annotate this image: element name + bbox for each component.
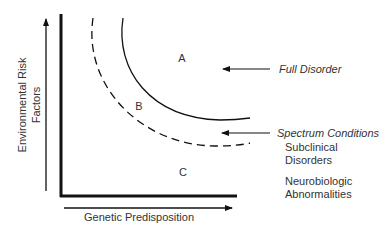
y-axis-label-line1: Environmental Risk — [16, 57, 28, 152]
region-a-label: A — [178, 52, 186, 64]
spectrum-conditions-label: Spectrum Conditions — [277, 127, 380, 139]
full-disorder-label: Full Disorder — [279, 63, 343, 75]
neurobiologic-label-line1: Neurobiologic — [285, 175, 353, 187]
diagram-canvas: Environmental Risk Factors Genetic Predi… — [0, 0, 390, 233]
neurobiologic-label-line2: Abnormalities — [285, 188, 352, 200]
region-c-label: C — [179, 166, 187, 178]
subclinical-label-line1: Subclinical — [285, 141, 338, 153]
axes — [60, 14, 237, 197]
region-b-label: B — [135, 100, 142, 112]
spectrum-threshold-dashed-curve — [92, 18, 250, 146]
x-axis-label: Genetic Predisposition — [84, 211, 194, 223]
y-axis-label-line2: Factors — [30, 86, 42, 123]
subclinical-label-line2: Disorders — [285, 154, 333, 166]
